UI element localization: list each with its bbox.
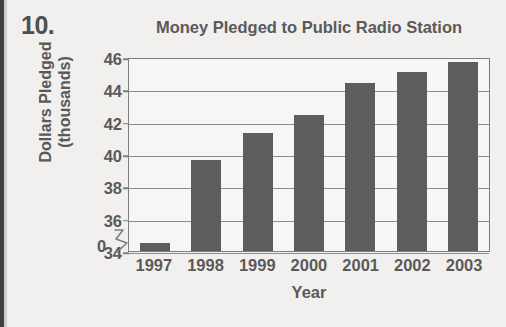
x-axis-tick-label: 1997 [130, 256, 178, 278]
bar-1999 [243, 133, 273, 251]
bar-1998 [191, 160, 221, 251]
x-axis-tick-label: 2001 [337, 256, 385, 278]
plot-area: 46444240383634 [128, 58, 490, 252]
bar-series [129, 59, 489, 251]
page-left-edge-shadow [4, 0, 7, 327]
bar-2001 [345, 83, 375, 251]
x-axis-tick-labels: 1997199819992000200120022003 [128, 256, 490, 278]
bar-2002 [397, 72, 427, 251]
chart-title: Money Pledged to Public Radio Station [128, 18, 490, 37]
y-axis-title-line-1: Dollars Pledged [36, 12, 55, 192]
y-axis-zero-label: 0 [97, 237, 106, 256]
y-axis-tick-label: 46 [104, 50, 122, 69]
worksheet-page: 10. Money Pledged to Public Radio Statio… [0, 0, 506, 327]
bar-2003 [448, 62, 478, 251]
y-axis-tick-label: 40 [104, 147, 122, 166]
bar-1997 [140, 243, 170, 251]
x-axis-tick-label: 1999 [233, 256, 281, 278]
bar-2000 [294, 115, 324, 251]
y-axis-tick-label: 38 [104, 179, 122, 198]
y-axis-title: Dollars Pledged (thousands) [36, 12, 90, 192]
x-axis-tick-label: 1998 [182, 256, 230, 278]
x-axis-title: Year [128, 283, 490, 302]
x-axis-tick-label: 2002 [388, 256, 436, 278]
y-axis-title-line-2: (thousands) [55, 12, 74, 192]
y-axis-tick-label: 44 [104, 82, 122, 101]
axis-break-icon [113, 228, 135, 254]
x-axis-tick-label: 2003 [440, 256, 488, 278]
gridline [129, 253, 489, 254]
x-axis-tick-label: 2000 [285, 256, 333, 278]
y-axis-tick-label: 42 [104, 114, 122, 133]
